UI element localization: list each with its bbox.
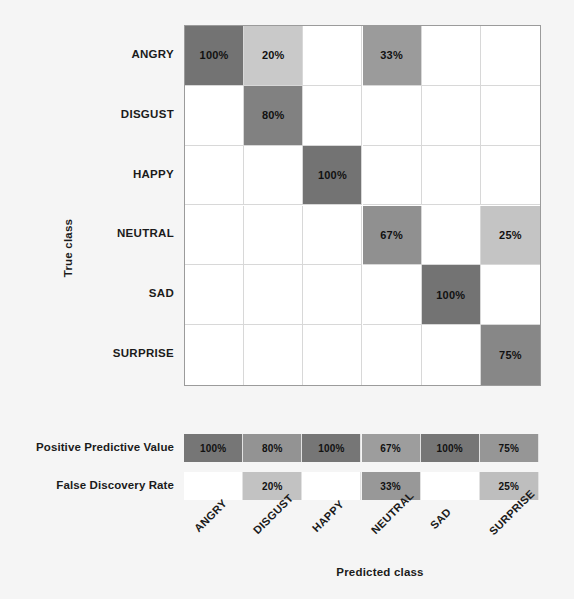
column-label-happy: HAPPY	[310, 497, 346, 533]
summary-cell	[421, 472, 480, 500]
confusion-matrix-grid: 100%20%33%80%100%67%25%100%75%	[184, 25, 541, 386]
matrix-cell: 20%	[244, 26, 303, 86]
column-label-angry: ANGRY	[191, 496, 228, 533]
matrix-cell: 100%	[422, 265, 481, 325]
summary-cell: 100%	[302, 434, 361, 462]
matrix-cell: 75%	[481, 325, 540, 385]
matrix-cell	[185, 265, 244, 325]
summary-cell	[302, 472, 361, 500]
summary-cell: 20%	[243, 472, 302, 500]
matrix-cell	[185, 86, 244, 146]
summary-cell: 100%	[184, 434, 243, 462]
matrix-cell	[185, 325, 244, 385]
false-discovery-rate-row: 20%33%25%	[184, 472, 541, 500]
matrix-cell	[303, 265, 362, 325]
summary-cell: 67%	[362, 434, 421, 462]
column-label-row: ANGRYDISGUSTHAPPYNEUTRALSADSURPRISE	[184, 503, 541, 558]
row-label-disgust: DISGUST	[24, 108, 174, 120]
matrix-cell	[363, 325, 422, 385]
row-label-angry: ANGRY	[24, 48, 174, 60]
x-axis-title-container: Predicted class	[0, 566, 574, 578]
matrix-cell: 33%	[363, 26, 422, 86]
matrix-cell: 25%	[481, 206, 540, 266]
matrix-cell	[481, 86, 540, 146]
summary-cell: 75%	[480, 434, 539, 462]
matrix-cell	[303, 206, 362, 266]
matrix-cell	[363, 146, 422, 206]
summary-cell: 80%	[243, 434, 302, 462]
matrix-cell: 67%	[363, 206, 422, 266]
positive-predictive-value-row: 100%80%100%67%100%75%	[184, 434, 541, 462]
matrix-cell	[422, 146, 481, 206]
row-label-neutral: NEUTRAL	[24, 227, 174, 239]
matrix-cell	[422, 86, 481, 146]
matrix-cell	[244, 325, 303, 385]
row-label-sad: SAD	[24, 287, 174, 299]
matrix-cell	[481, 146, 540, 206]
summary-cell	[184, 472, 243, 500]
matrix-cell	[185, 206, 244, 266]
matrix-cell	[422, 325, 481, 385]
matrix-cell	[244, 265, 303, 325]
matrix-cell	[303, 86, 362, 146]
matrix-cell: 100%	[303, 146, 362, 206]
matrix-cell: 80%	[244, 86, 303, 146]
matrix-cell	[185, 146, 244, 206]
matrix-cell	[303, 325, 362, 385]
confusion-matrix-figure: True class ANGRYDISGUSTHAPPYNEUTRALSADSU…	[0, 0, 574, 599]
matrix-cell	[363, 265, 422, 325]
matrix-cell	[481, 26, 540, 86]
matrix-cell	[244, 146, 303, 206]
summary-row-label: False Discovery Rate	[14, 479, 174, 491]
summary-cell: 100%	[421, 434, 480, 462]
matrix-cell	[244, 206, 303, 266]
row-label-column: ANGRYDISGUSTHAPPYNEUTRALSADSURPRISE	[22, 25, 174, 386]
matrix-cell: 100%	[185, 26, 244, 86]
matrix-cell	[481, 265, 540, 325]
row-label-surprise: SURPRISE	[24, 347, 174, 359]
summary-row-label: Positive Predictive Value	[14, 441, 174, 453]
summary-label-column: Positive Predictive ValueFalse Discovery…	[14, 434, 174, 500]
matrix-cell	[363, 86, 422, 146]
row-label-happy: HAPPY	[24, 168, 174, 180]
column-label-sad: SAD	[428, 506, 454, 532]
matrix-cell	[422, 206, 481, 266]
matrix-cell	[422, 26, 481, 86]
x-axis-title: Predicted class	[336, 566, 423, 578]
matrix-cell	[303, 26, 362, 86]
